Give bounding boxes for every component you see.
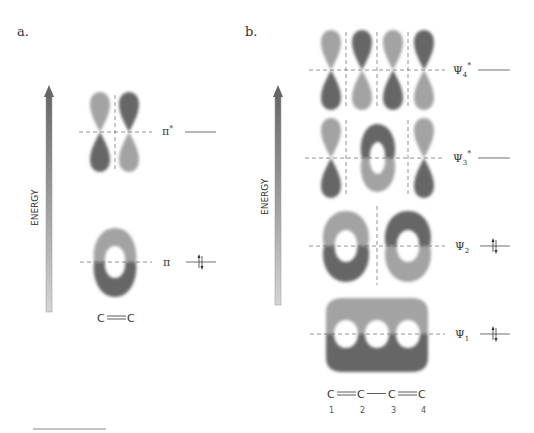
svg-text:C: C — [418, 388, 426, 401]
svg-text:C: C — [97, 312, 105, 325]
energy-axis-label-b: ENERGY — [260, 178, 270, 215]
energy-arrow-b — [273, 85, 283, 305]
svg-text:C: C — [388, 388, 396, 401]
energy-level-psi2 — [480, 238, 510, 254]
svg-text:C: C — [127, 312, 135, 325]
svg-text:C: C — [357, 388, 365, 401]
atom-numbers: 1 2 3 4 — [329, 406, 426, 415]
orbital-label-psi4-star: Ψ4* — [453, 61, 471, 79]
orbital-label-psi2: Ψ2 — [455, 240, 469, 255]
panel-a: ENERGY π* π C — [30, 85, 216, 325]
orbital-pi — [94, 228, 137, 297]
molecule-butadiene: C C C C — [327, 388, 426, 401]
svg-text:2: 2 — [360, 406, 365, 415]
orbital-label-pi-star: π* — [162, 124, 173, 138]
panel-b: ENERGY Ψ4* Ψ3* — [260, 30, 510, 415]
svg-text:C: C — [327, 388, 335, 401]
svg-text:4: 4 — [421, 406, 426, 415]
energy-level-psi1 — [480, 326, 510, 342]
orbital-diagram: ENERGY π* π C — [0, 0, 534, 433]
energy-level-pi — [186, 254, 216, 270]
svg-text:1: 1 — [329, 406, 334, 415]
orbital-label-pi: π — [163, 256, 170, 269]
molecule-ethylene: C C — [97, 312, 135, 325]
orbital-psi1 — [326, 298, 428, 372]
energy-axis-label-a: ENERGY — [30, 189, 40, 226]
orbital-label-psi3-star: Ψ3* — [453, 149, 471, 167]
orbital-label-psi1: Ψ1 — [455, 328, 469, 343]
energy-arrow-a — [44, 85, 54, 312]
svg-text:3: 3 — [391, 406, 396, 415]
